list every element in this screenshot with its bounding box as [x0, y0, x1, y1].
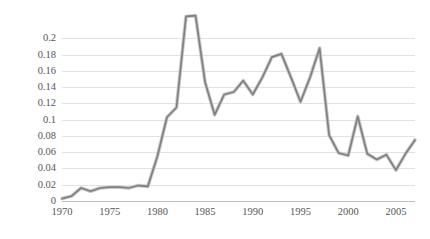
y-axis-tick-label: 0.18 — [0, 50, 56, 60]
y-axis-tick-label: 0.08 — [0, 131, 56, 141]
y-axis-tick-label: 0.2 — [0, 33, 56, 43]
x-axis-tick-label: 1995 — [281, 206, 321, 217]
plot-area — [62, 14, 415, 201]
x-axis-tick-label: 1975 — [90, 206, 130, 217]
y-axis-tick-label: 0.14 — [0, 82, 56, 92]
x-axis-line — [62, 201, 415, 202]
y-axis-tick-label: 0.16 — [0, 66, 56, 76]
x-axis-tick-label: 1990 — [233, 206, 273, 217]
y-axis-tick-label: 0.1 — [0, 115, 56, 125]
series-line — [62, 16, 415, 199]
y-axis-tick-label: 0.04 — [0, 163, 56, 173]
y-axis-tick-label: 0.12 — [0, 98, 56, 108]
y-axis-tick-label: 0.02 — [0, 180, 56, 190]
y-axis-tick-label: 0.06 — [0, 147, 56, 157]
x-axis-tick-label: 1980 — [137, 206, 177, 217]
x-axis-tick-label: 1985 — [185, 206, 225, 217]
line-chart: Per 100,000 people 00.020.040.060.080.10… — [0, 0, 430, 239]
y-axis-tick-label: 0 — [0, 196, 56, 206]
series-line-halo — [62, 16, 415, 199]
data-series-line — [62, 14, 415, 201]
x-axis-tick-label: 1970 — [42, 206, 82, 217]
x-axis-tick-label: 2005 — [376, 206, 416, 217]
x-axis-tick-label: 2000 — [328, 206, 368, 217]
